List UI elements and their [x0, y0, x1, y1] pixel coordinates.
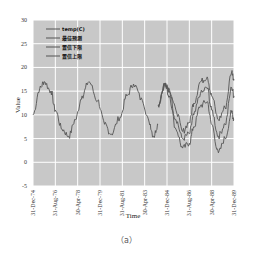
legend-entry: 最佳预测	[62, 35, 82, 42]
y-tick-label: 25	[21, 41, 27, 47]
y-tick-label: 5	[24, 136, 27, 142]
legend-entry: temp(C)	[62, 26, 85, 33]
legend-entry: 置信下限	[62, 44, 83, 51]
line-chart: -5051015202530 31-Dec-7431-Aug-7630-Apr-…	[0, 0, 253, 232]
y-tick-label: 15	[21, 88, 27, 94]
x-tick-label: 31-Dec-74	[30, 190, 36, 216]
x-tick-label: 31-Dec-84	[164, 190, 170, 216]
x-axis-label: Time	[126, 212, 141, 220]
x-tick-label: 30-Apr-78	[75, 190, 81, 215]
x-tick-label: 30-Apr-83	[142, 190, 148, 215]
x-tick-label: 31-Dec-89	[231, 190, 237, 216]
x-tick-label: 31-Aug-86	[186, 190, 192, 216]
y-tick-label: -5	[22, 183, 27, 189]
legend-entry: 置信上限	[62, 53, 83, 60]
x-tick-label: 31-Aug-81	[119, 190, 125, 216]
x-tick-label: 30-Apr-88	[209, 190, 215, 215]
figure-caption: （a）	[0, 234, 253, 245]
x-tick-label: 31-Aug-76	[52, 190, 58, 216]
x-tick-label: 31-Dec-79	[97, 190, 103, 216]
y-tick-label: 20	[21, 64, 27, 70]
y-tick-label: 0	[24, 159, 27, 165]
y-axis-label: Value	[14, 97, 22, 113]
y-tick-label: 30	[21, 17, 27, 23]
